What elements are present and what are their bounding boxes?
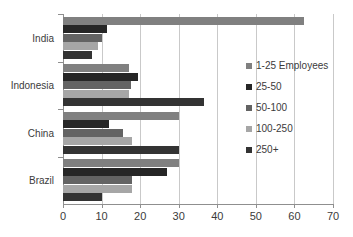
bar-china-25-50[interactable] (63, 120, 109, 128)
bar-india-25-50[interactable] (63, 25, 107, 33)
bar-india-250[interactable] (63, 51, 92, 59)
legend-item-1-25-employees[interactable]: 1-25 Employees (246, 60, 352, 81)
value-axis-line (63, 204, 334, 205)
legend-label: 1-25 Employees (256, 60, 328, 71)
category-label-indonesia: Indonesia (11, 80, 54, 91)
x-tick-40 (217, 204, 218, 208)
legend-item-25-50[interactable]: 25-50 (246, 81, 352, 102)
x-tick-label-60: 60 (288, 210, 300, 222)
category-label-india: India (32, 32, 54, 43)
bar-indonesia-250[interactable] (63, 98, 204, 106)
x-tick-70 (333, 204, 334, 208)
category-axis: IndiaIndonesiaChinaBrazil (0, 0, 60, 237)
legend-item-100-250[interactable]: 100-250 (246, 123, 352, 144)
bar-china-250[interactable] (63, 146, 179, 154)
bar-brazil-50-100[interactable] (63, 176, 132, 184)
legend-swatch-icon-4 (246, 126, 252, 132)
bar-indonesia-50-100[interactable] (63, 81, 131, 89)
x-tick-label-0: 0 (60, 210, 66, 222)
bar-indonesia-1-25-employees[interactable] (63, 64, 129, 72)
x-tick-0 (63, 204, 64, 208)
x-tick-30 (179, 204, 180, 208)
x-tick-20 (140, 204, 141, 208)
legend-swatch-icon-2 (246, 84, 252, 90)
bar-india-100-250[interactable] (63, 42, 98, 50)
x-tick-10 (102, 204, 103, 208)
chart-legend: 1-25 Employees25-5050-100100-250250+ (246, 60, 352, 165)
bar-china-50-100[interactable] (63, 129, 123, 137)
bar-india-1-25-employees[interactable] (63, 17, 304, 25)
legend-label: 250+ (256, 144, 279, 155)
x-tick-label-30: 30 (173, 210, 185, 222)
x-tick-60 (294, 204, 295, 208)
bar-chart: IndiaIndonesiaChinaBrazil 1-25 Employees… (0, 0, 353, 237)
x-tick-50 (256, 204, 257, 208)
legend-swatch-icon-3 (246, 105, 252, 111)
legend-label: 25-50 (256, 81, 282, 92)
bar-indonesia-100-250[interactable] (63, 90, 129, 98)
gridline-30 (179, 14, 180, 204)
bar-china-100-250[interactable] (63, 137, 132, 145)
bar-china-1-25-employees[interactable] (63, 112, 179, 120)
category-label-brazil: Brazil (29, 175, 54, 186)
bar-brazil-1-25-employees[interactable] (63, 159, 179, 167)
x-tick-label-10: 10 (95, 210, 107, 222)
bar-brazil-25-50[interactable] (63, 168, 167, 176)
legend-swatch-icon-5 (246, 147, 252, 153)
x-tick-label-20: 20 (134, 210, 146, 222)
x-tick-label-70: 70 (327, 210, 339, 222)
legend-item-250[interactable]: 250+ (246, 144, 352, 165)
x-tick-label-50: 50 (250, 210, 262, 222)
bar-brazil-250[interactable] (63, 193, 102, 201)
legend-item-50-100[interactable]: 50-100 (246, 102, 352, 123)
bar-brazil-100-250[interactable] (63, 185, 132, 193)
category-label-china: China (28, 127, 54, 138)
legend-label: 100-250 (256, 123, 293, 134)
x-tick-label-40: 40 (211, 210, 223, 222)
legend-swatch-icon-1 (246, 63, 252, 69)
legend-label: 50-100 (256, 102, 287, 113)
bar-india-50-100[interactable] (63, 34, 102, 42)
bar-indonesia-25-50[interactable] (63, 73, 138, 81)
gridline-40 (217, 14, 218, 204)
